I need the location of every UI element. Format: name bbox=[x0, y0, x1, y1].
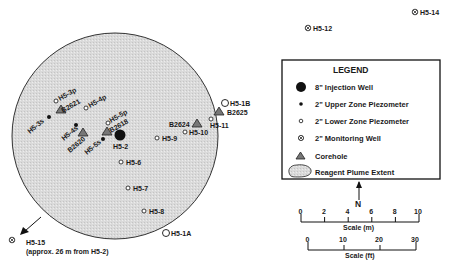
scale-bar-feet: 0 10 20 30 Scale (ft) bbox=[306, 236, 419, 260]
well-label: H5-2 bbox=[113, 143, 128, 150]
monitoring-well-h5-14[interactable]: H5-14 bbox=[412, 9, 439, 16]
corehole-b2625[interactable]: B2625 bbox=[214, 107, 248, 116]
well-label: H5-11 bbox=[210, 122, 229, 129]
distance-note: (approx. 26 m from H5-2) bbox=[26, 248, 108, 256]
svg-text:4: 4 bbox=[346, 208, 350, 215]
lower-piezometer-h5-1b[interactable]: H5-1B bbox=[222, 100, 251, 108]
lower-zone-piezometer-icon bbox=[299, 119, 303, 123]
lower-piezometer-h5-1a[interactable]: H5-1A bbox=[163, 230, 192, 238]
monitoring-well-h5-12[interactable]: H5-12 bbox=[305, 25, 332, 32]
svg-text:0: 0 bbox=[299, 208, 303, 215]
corehole-label: B2625 bbox=[227, 109, 248, 116]
legend-item-upper-zone-piezometer: 2" Upper Zone Piezometer bbox=[299, 100, 408, 109]
svg-text:2" Monitoring Well: 2" Monitoring Well bbox=[315, 134, 381, 143]
monitoring-well-icon bbox=[298, 135, 303, 140]
corehole-label: B2624 bbox=[169, 121, 190, 128]
svg-text:20: 20 bbox=[375, 236, 383, 243]
north-arrow-icon: N bbox=[355, 181, 362, 209]
well-label: H5-12 bbox=[313, 25, 332, 32]
site-map: H5-2 H5-3s H5-4s H5-5s H5-3p H5-4p H5-5p… bbox=[0, 0, 449, 266]
corehole-b2624[interactable]: B2624 bbox=[169, 119, 202, 128]
scale-bar-meters: 0 2 4 6 8 10 Scale (m) bbox=[299, 208, 422, 232]
north-label: N bbox=[355, 199, 361, 209]
svg-text:2" Upper Zone Piezometer: 2" Upper Zone Piezometer bbox=[315, 100, 409, 109]
svg-text:Corehole: Corehole bbox=[315, 152, 348, 161]
svg-text:30: 30 bbox=[411, 236, 419, 243]
svg-text:8: 8 bbox=[393, 208, 397, 215]
well-label: H5-7 bbox=[133, 185, 148, 192]
well-label: H5-10 bbox=[189, 129, 208, 136]
injection-well-icon bbox=[296, 82, 306, 92]
well-label: H5-1B bbox=[230, 100, 250, 107]
svg-text:6: 6 bbox=[369, 208, 373, 215]
well-label: H5-8 bbox=[149, 208, 164, 215]
svg-text:Reagent Plume Extent: Reagent Plume Extent bbox=[315, 168, 395, 177]
legend-item-lower-zone-piezometer: 2" Lower Zone Piezometer bbox=[299, 117, 409, 126]
svg-text:10: 10 bbox=[414, 208, 422, 215]
svg-text:2: 2 bbox=[322, 208, 326, 215]
well-label: H5-15 bbox=[26, 239, 45, 246]
svg-text:8" Injection Well: 8" Injection Well bbox=[315, 83, 373, 92]
legend-title: LEGEND bbox=[333, 65, 368, 75]
well-label: H5-9 bbox=[162, 135, 177, 142]
scale-ft-label: Scale (ft) bbox=[345, 252, 375, 260]
svg-text:2" Lower Zone Piezometer: 2" Lower Zone Piezometer bbox=[315, 117, 409, 126]
svg-text:10: 10 bbox=[339, 236, 347, 243]
plume-icon bbox=[289, 165, 311, 177]
well-label: H5-14 bbox=[420, 9, 439, 16]
upper-zone-piezometer-icon bbox=[299, 102, 303, 106]
direction-arrow-icon bbox=[20, 217, 41, 235]
well-label: H5-1A bbox=[171, 230, 191, 237]
monitoring-well-h5-15[interactable]: H5-15 (approx. 26 m from H5-2) bbox=[9, 237, 108, 256]
scale-m-label: Scale (m) bbox=[343, 224, 374, 232]
legend: LEGEND 8" Injection Well 2" Upper Zone P… bbox=[282, 60, 440, 179]
svg-text:0: 0 bbox=[306, 236, 310, 243]
lower-piezometer-h5-11[interactable]: H5-11 bbox=[209, 117, 229, 129]
well-label: H5-6 bbox=[126, 159, 141, 166]
